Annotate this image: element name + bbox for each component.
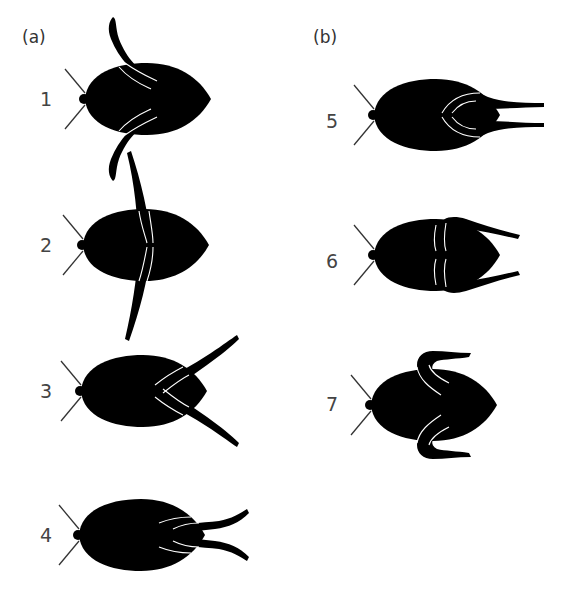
beetle-diagram	[0, 0, 571, 595]
beetle-stage-4	[59, 499, 249, 571]
beetle-stage-2	[63, 151, 209, 341]
beetle-stage-3	[61, 335, 239, 447]
beetle-stage-1	[65, 17, 211, 181]
beetle-stage-6	[354, 217, 520, 293]
beetle-stage-5	[354, 79, 544, 151]
beetle-stage-7	[351, 351, 497, 459]
